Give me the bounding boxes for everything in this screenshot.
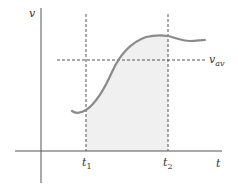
t1-label-sub: 1	[86, 162, 91, 171]
area-under-curve	[86, 35, 168, 151]
y-axis-label: v	[29, 7, 36, 20]
t1-label: t1	[82, 156, 92, 171]
t2-label: t2	[163, 156, 173, 171]
x-axis-label: t	[216, 157, 221, 170]
velocity-time-graph: v t t1 t2 vav	[0, 0, 238, 187]
vav-label: vav	[209, 53, 225, 68]
vav-label-sub: av	[215, 59, 225, 68]
t2-label-sub: 2	[167, 162, 172, 171]
